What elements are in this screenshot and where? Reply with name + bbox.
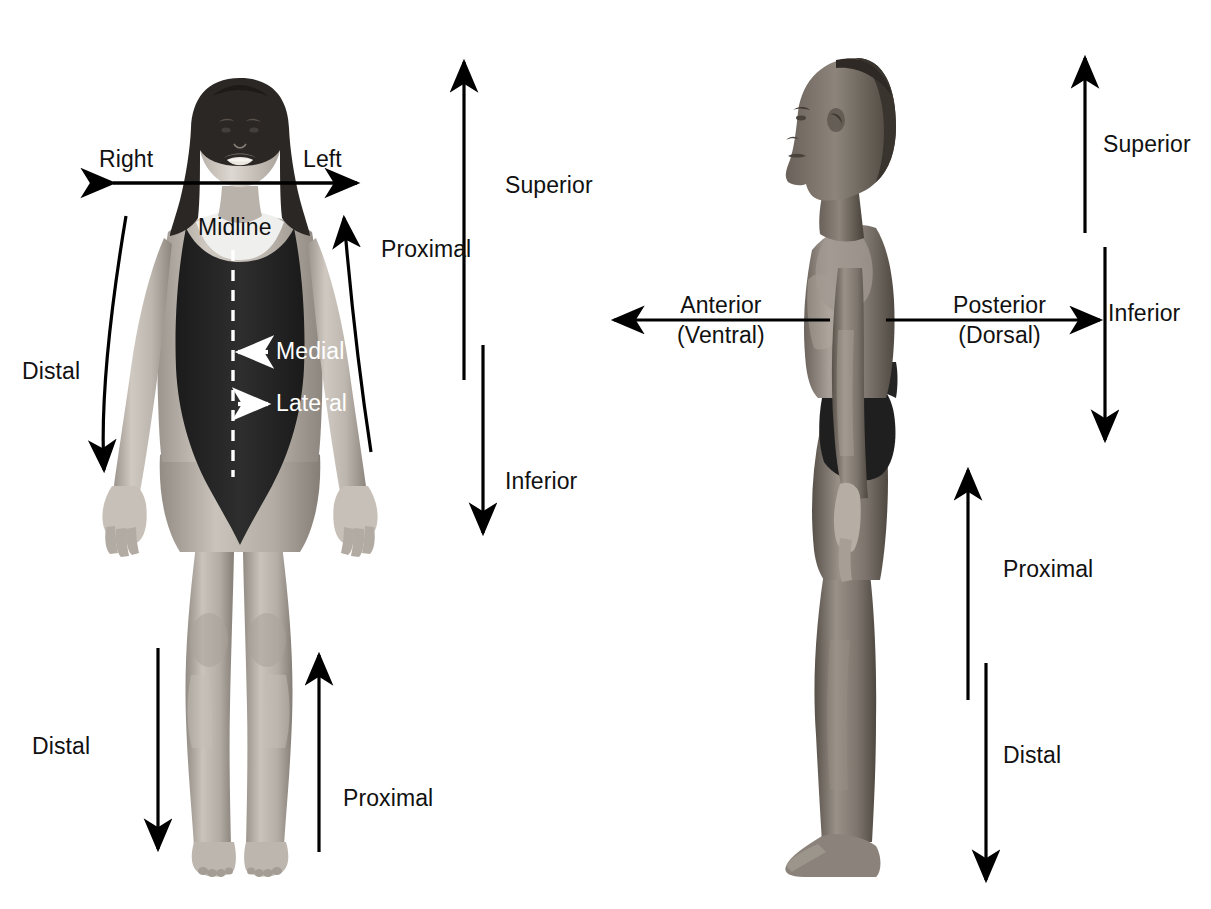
anatomical-directional-figure: Right Left Midline Medial Lateral Distal… xyxy=(0,0,1211,909)
label-right: Right xyxy=(99,146,153,172)
label-distal-arm: Distal xyxy=(22,358,80,384)
label-anterior: Anterior xyxy=(677,290,765,320)
label-distal-leg: Distal xyxy=(32,733,90,759)
label-proximal-right-panel: Proximal xyxy=(1003,556,1093,582)
label-inferior-right-panel: Inferior xyxy=(1108,300,1180,326)
female-anterior-photo xyxy=(102,78,377,877)
figure-graphics-layer xyxy=(0,0,1211,909)
distal-arm-arrow xyxy=(103,216,126,470)
male-lateral-photo xyxy=(785,58,897,877)
label-ventral: (Ventral) xyxy=(677,320,765,350)
label-midline: Midline xyxy=(198,214,272,240)
label-dorsal: (Dorsal) xyxy=(953,320,1046,350)
label-lateral: Lateral xyxy=(276,390,347,416)
label-distal-right-panel: Distal xyxy=(1003,742,1061,768)
label-left: Left xyxy=(303,146,342,172)
label-anterior-group: Anterior (Ventral) xyxy=(677,290,765,350)
label-proximal-arm: Proximal xyxy=(381,236,471,262)
label-posterior-group: Posterior (Dorsal) xyxy=(953,290,1046,350)
proximal-arm-arrow xyxy=(344,218,371,452)
label-medial: Medial xyxy=(276,338,344,364)
label-inferior-left-panel: Inferior xyxy=(505,468,577,494)
label-superior-right-panel: Superior xyxy=(1103,131,1191,157)
label-posterior: Posterior xyxy=(953,290,1046,320)
label-superior-left-panel: Superior xyxy=(505,172,593,198)
label-proximal-leg: Proximal xyxy=(343,785,433,811)
